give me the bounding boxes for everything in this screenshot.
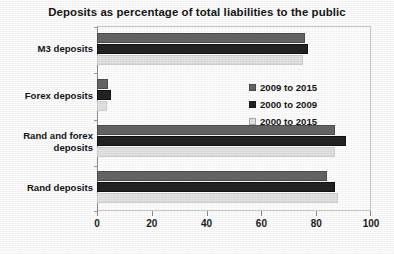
x-axis-tick xyxy=(316,211,317,216)
legend-swatch-icon xyxy=(249,84,256,91)
bar-group xyxy=(97,33,371,66)
x-axis-tick xyxy=(261,211,262,216)
chart-title: Deposits as percentage of total liabilit… xyxy=(0,6,394,18)
y-axis-label: Rand and forex deposits xyxy=(1,130,93,153)
bar xyxy=(97,55,303,65)
bar xyxy=(97,182,335,192)
x-axis-tick-label: 60 xyxy=(241,218,281,229)
bar xyxy=(97,90,111,100)
x-axis-tick xyxy=(97,211,98,216)
legend-item[interactable]: 2009 to 2015 xyxy=(249,78,379,95)
bar-group xyxy=(97,171,371,204)
bar xyxy=(97,171,327,181)
bar xyxy=(97,136,346,146)
legend-item[interactable]: 2000 to 2009 xyxy=(249,95,379,112)
y-axis-label: Forex deposits xyxy=(1,90,93,102)
x-axis-tick xyxy=(152,211,153,216)
x-axis-tick-label: 40 xyxy=(187,218,227,229)
x-axis-tick xyxy=(370,211,371,216)
bar xyxy=(97,101,107,111)
x-axis-tick-label: 80 xyxy=(296,218,336,229)
legend-label: 2000 to 2015 xyxy=(260,116,317,127)
chart-screenshot: Deposits as percentage of total liabilit… xyxy=(0,0,394,254)
x-axis-tick xyxy=(207,211,208,216)
x-axis-tick-label: 20 xyxy=(132,218,172,229)
bar-group xyxy=(97,125,371,158)
x-axis: 020406080100 xyxy=(97,211,371,241)
bar xyxy=(97,193,338,203)
y-axis-label: M3 deposits xyxy=(1,43,93,55)
legend-item[interactable]: 2000 to 2015 xyxy=(249,112,379,129)
bar xyxy=(97,44,308,54)
x-axis-tick-label: 0 xyxy=(77,218,117,229)
y-axis-category-labels: M3 depositsForex depositsRand and forex … xyxy=(0,26,93,211)
legend-swatch-icon xyxy=(249,101,256,108)
bar xyxy=(97,33,305,43)
legend-label: 2009 to 2015 xyxy=(260,82,317,93)
x-axis-tick-label: 100 xyxy=(351,218,391,229)
bar xyxy=(97,147,335,157)
legend-swatch-icon xyxy=(249,118,256,125)
chart-legend: 2009 to 20152000 to 20092000 to 2015 xyxy=(249,78,379,129)
y-axis-label: Rand deposits xyxy=(1,182,93,194)
legend-label: 2000 to 2009 xyxy=(260,99,317,110)
bar xyxy=(97,79,108,89)
